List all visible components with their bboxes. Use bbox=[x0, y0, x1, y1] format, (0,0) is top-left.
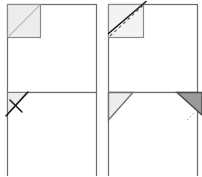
panel-2-svg bbox=[101, 0, 202, 88]
figure-root bbox=[0, 0, 202, 176]
panel-4-svg bbox=[101, 88, 202, 176]
diagram-panel-step-2 bbox=[101, 0, 202, 88]
panel-3-svg bbox=[0, 88, 101, 176]
diagram-panel-step-3 bbox=[0, 88, 101, 176]
panel-1-svg bbox=[0, 0, 101, 88]
sheet-outline bbox=[8, 93, 97, 177]
diagram-panel-step-1 bbox=[0, 0, 101, 88]
diagram-panel-step-4 bbox=[101, 88, 202, 176]
